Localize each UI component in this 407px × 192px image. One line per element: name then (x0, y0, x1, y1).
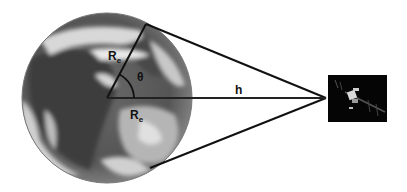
satellite-image (328, 75, 387, 122)
label-altitude-h: h (235, 83, 242, 97)
label-angle-theta: θ (137, 70, 144, 84)
earth-satellite-diagram: Re θ Re h (0, 0, 407, 192)
